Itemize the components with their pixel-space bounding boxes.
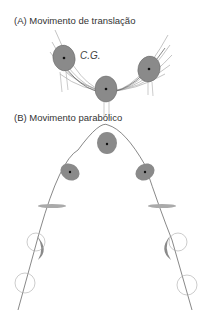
panel-a-label: (A) Movimento de translação — [14, 15, 135, 26]
diagram-canvas — [0, 0, 210, 325]
parabolic-bodies — [15, 132, 197, 295]
translation-bodies — [50, 43, 163, 102]
center-of-gravity-label: C.G. — [80, 50, 101, 61]
panel-b-label: (B) Movimento parabólico — [14, 112, 122, 123]
